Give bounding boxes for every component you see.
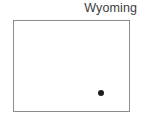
state-outline-wyoming xyxy=(13,20,130,112)
state-locator-map: Wyoming xyxy=(0,0,143,126)
location-marker-dot xyxy=(98,90,104,96)
page-title: Wyoming xyxy=(0,1,137,15)
